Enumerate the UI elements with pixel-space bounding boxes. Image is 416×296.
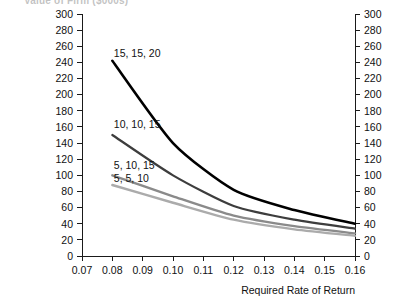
y-tick-label-left: 80 [61,185,73,197]
y-tick-label-left: 60 [61,201,73,213]
y-tick-label-left: 40 [61,218,73,230]
y-tick-label-right: 240 [364,56,382,68]
y-tick-label-left: 100 [55,169,73,181]
x-tick-label: 0.07 [72,264,93,276]
y-tick-label-right: 60 [364,201,376,213]
x-tick-label: 0.12 [223,264,244,276]
y-tick-label-right: 20 [364,234,376,246]
y-tick-label-left: 160 [55,121,73,133]
y-tick-label-right: 200 [364,88,382,100]
chart-container: Value of Firm ($000s) 002020404060608080… [0,0,416,296]
series-line [112,175,355,233]
y-tick-label-left: 0 [67,250,73,262]
y-tick-label-right: 180 [364,105,382,117]
y-tick-label-right: 80 [364,185,376,197]
y-tick-label-right: 40 [364,218,376,230]
y-tick-label-right: 140 [364,137,382,149]
y-tick-label-left: 300 [55,8,73,20]
y-tick-label-right: 160 [364,121,382,133]
series-label: 5, 10, 15 [114,159,155,171]
y-tick-label-right: 300 [364,8,382,20]
y-tick-label-right: 100 [364,169,382,181]
x-tick-label: 0.10 [163,264,184,276]
x-tick-label: 0.11 [193,264,213,276]
x-tick-label: 0.13 [254,264,275,276]
x-tick-label: 0.14 [284,264,305,276]
series-label: 15, 15, 20 [114,47,161,59]
y-tick-label-right: 220 [364,72,382,84]
x-tick-label: 0.08 [102,264,123,276]
y-tick-label-left: 180 [55,105,73,117]
y-tick-label-left: 140 [55,137,73,149]
y-tick-label-right: 120 [364,153,382,165]
series-label: 10, 10, 15 [114,118,161,130]
series-label: 5, 5, 10 [114,172,149,184]
y-tick-label-left: 120 [55,153,73,165]
y-tick-label-right: 0 [364,250,370,262]
x-tick-label: 0.16 [345,264,366,276]
y-tick-label-right: 260 [364,40,382,52]
y-tick-label-left: 240 [55,56,73,68]
y-tick-label-left: 280 [55,24,73,36]
series-line [112,61,355,224]
x-tick-label: 0.15 [314,264,335,276]
y-tick-label-left: 20 [61,234,73,246]
y-tick-label-right: 280 [364,24,382,36]
y-tick-label-left: 220 [55,72,73,84]
y-tick-label-left: 200 [55,88,73,100]
x-tick-label: 0.09 [132,264,153,276]
line-chart: 0020204040606080801001001201201401401601… [0,0,416,296]
y-tick-label-left: 260 [55,40,73,52]
x-axis-title: Required Rate of Return [241,284,355,296]
